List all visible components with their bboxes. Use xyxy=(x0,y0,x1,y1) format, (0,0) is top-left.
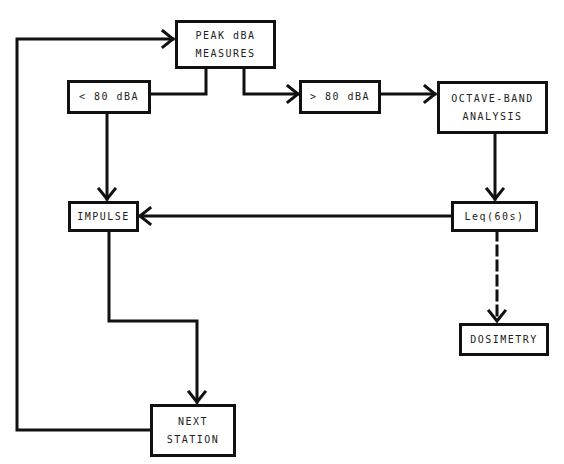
node-label: MEASURES xyxy=(195,45,255,63)
node-label: DOSIMETRY xyxy=(470,331,538,349)
node-impulse: IMPULSE xyxy=(68,201,139,232)
node-label: ANALYSIS xyxy=(462,108,522,126)
edge-impulse-to-next xyxy=(109,231,197,402)
node-octave-band-analysis: OCTAVE-BAND ANALYSIS xyxy=(437,81,548,134)
edge-peak-to-gt80 xyxy=(244,68,298,94)
edge-peak-to-lt80 xyxy=(150,68,206,94)
node-next-station: NEXT STATION xyxy=(150,404,236,457)
node-above-80-dba: > 80 dBA xyxy=(299,80,381,114)
node-label: OCTAVE-BAND xyxy=(451,90,534,108)
node-label: Leq(60s) xyxy=(464,208,524,226)
node-label: NEXT xyxy=(178,413,208,431)
connector-lines xyxy=(0,0,564,464)
node-label: < 80 dBA xyxy=(79,88,139,106)
node-peak-dba-measures: PEAK dBA MEASURES xyxy=(175,20,276,69)
node-label: > 80 dBA xyxy=(310,88,370,106)
node-dosimetry: DOSIMETRY xyxy=(459,323,549,356)
node-label: STATION xyxy=(167,431,220,449)
node-label: PEAK dBA xyxy=(195,27,255,45)
node-below-80-dba: < 80 dBA xyxy=(67,80,151,114)
node-label: IMPULSE xyxy=(77,208,130,226)
node-leq-60s: Leq(60s) xyxy=(451,201,538,232)
